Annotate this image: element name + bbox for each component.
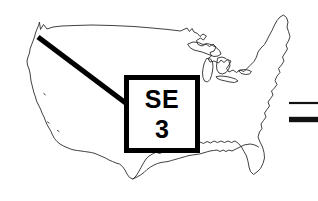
callout-code-label: SE bbox=[145, 87, 179, 112]
interior-accent-marks bbox=[44, 94, 59, 132]
callout-number-label: 3 bbox=[155, 117, 169, 142]
lake-erie-outline bbox=[217, 76, 239, 83]
lake-superior-outline bbox=[188, 42, 221, 57]
map-figure: SE 3 bbox=[0, 0, 318, 201]
callout-leader-line bbox=[38, 37, 127, 104]
callout-box: SE 3 bbox=[124, 75, 200, 153]
